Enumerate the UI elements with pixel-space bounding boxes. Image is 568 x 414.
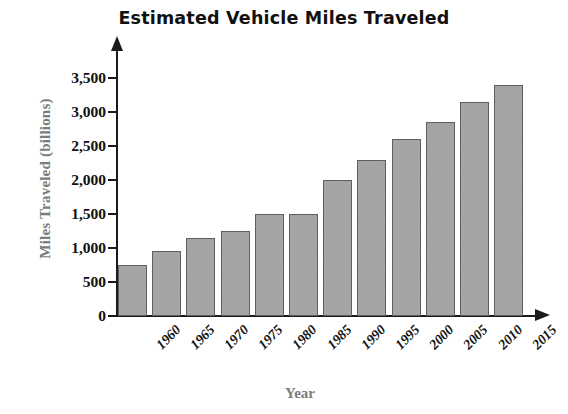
y-axis-tick xyxy=(108,111,117,113)
bars-layer xyxy=(118,48,538,316)
bar xyxy=(426,122,455,316)
bar xyxy=(460,102,489,316)
x-axis-tick-label: 1980 xyxy=(289,322,320,353)
x-axis-tick-label: 1960 xyxy=(153,322,184,353)
bar xyxy=(357,160,386,316)
x-axis-tick-label: 1970 xyxy=(221,322,252,353)
x-axis-tick-label: 2015 xyxy=(529,322,560,353)
bar xyxy=(323,180,352,316)
bar xyxy=(494,85,523,316)
x-axis-tick-label: 2000 xyxy=(426,322,457,353)
y-axis-tick xyxy=(108,315,117,317)
y-axis-tick xyxy=(108,77,117,79)
x-axis-title: Year xyxy=(150,385,450,402)
y-axis-tick-label-text: 0 xyxy=(42,308,106,324)
bar xyxy=(152,251,181,316)
chart-figure: Estimated Vehicle Miles Traveled 05001,0… xyxy=(0,0,568,414)
x-axis-tick-label: 1975 xyxy=(255,322,286,353)
y-axis-tick-label: 0 xyxy=(36,308,106,324)
x-axis-tick-label: 1965 xyxy=(187,322,218,353)
y-axis-tick xyxy=(108,145,117,147)
bar xyxy=(255,214,284,316)
y-axis-tick xyxy=(108,281,117,283)
y-axis-tick xyxy=(108,213,117,215)
bar xyxy=(221,231,250,316)
x-axis-tick-label: 1990 xyxy=(358,322,389,353)
x-axis-tick-label: 1985 xyxy=(324,322,355,353)
bar xyxy=(118,265,147,316)
bar xyxy=(289,214,318,316)
bar xyxy=(392,139,421,316)
y-axis-tick xyxy=(108,179,117,181)
bar xyxy=(186,238,215,316)
y-axis-title: Miles Traveled (billions) xyxy=(37,64,54,294)
plot-area: 05001,0001,5002,0002,5003,0003,500 Miles… xyxy=(0,0,568,414)
y-axis-tick xyxy=(108,247,117,249)
x-axis-tick-label: 2010 xyxy=(495,322,526,353)
x-axis-tick-label: 1995 xyxy=(392,322,423,353)
x-axis-tick-label: 2005 xyxy=(460,322,491,353)
